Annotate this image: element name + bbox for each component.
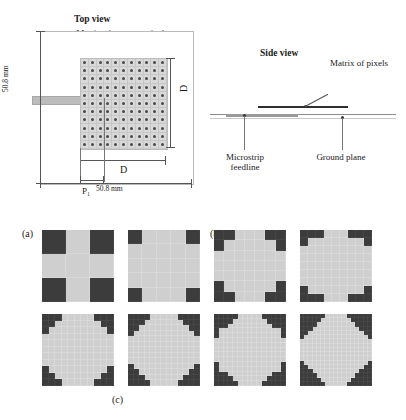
patch-pixel: [89, 67, 97, 75]
pixel-grid: [42, 314, 114, 386]
pixel-on: [128, 273, 142, 287]
pixel-on: [300, 262, 308, 270]
pixel-on: [224, 261, 234, 271]
leader-line-ground: [342, 118, 343, 150]
patch-pixel: [120, 84, 128, 92]
pattern-8: [300, 314, 372, 386]
patch-pixel: [112, 141, 120, 149]
pixel-on: [186, 244, 200, 258]
patch-pixel: [151, 108, 159, 116]
patch-pixel: [112, 133, 120, 141]
pixel-on: [276, 261, 286, 271]
pixel-on: [224, 281, 234, 291]
tick-right-bottom: [191, 179, 192, 188]
figure-root: Top view Matrix of nₚₓ x nₚₓ pixels 50.8…: [0, 0, 406, 420]
pixel-on: [332, 278, 340, 286]
pixel-off: [368, 382, 372, 386]
patch-pixel: [112, 67, 120, 75]
pixel-grid: [128, 314, 200, 386]
dimension-label-width: 50.8 mm: [94, 185, 125, 193]
patch-pixel: [112, 100, 120, 108]
pixel-on: [324, 286, 332, 294]
patch-pixel: [81, 116, 89, 124]
pixel-on: [316, 286, 324, 294]
pixel-on: [348, 286, 356, 294]
pixel-on: [340, 262, 348, 270]
patch-pixel: [81, 100, 89, 108]
patch-pixel: [81, 67, 89, 75]
patch-pixel: [104, 59, 112, 67]
pixel-off: [90, 230, 114, 254]
pixel-on: [348, 270, 356, 278]
pixel-on: [324, 254, 332, 262]
dimension-line-height: [40, 31, 41, 183]
pixel-on: [245, 251, 255, 261]
patch-pixel: [89, 75, 97, 83]
pixel-on: [332, 286, 340, 294]
patch-pixel: [144, 100, 152, 108]
pixel-off: [90, 278, 114, 302]
patch-pixel: [120, 67, 128, 75]
pixel-on: [235, 230, 245, 240]
patch-pixel: [104, 84, 112, 92]
pixel-on: [308, 278, 316, 286]
pixel-off: [356, 294, 364, 302]
pixel-on: [340, 294, 348, 302]
patch-pixel: [136, 67, 144, 75]
pixel-on: [186, 273, 200, 287]
patch-pixel: [151, 84, 159, 92]
patch-pixel: [104, 141, 112, 149]
pixel-on: [142, 244, 156, 258]
pixel-on: [324, 278, 332, 286]
patch-pixel: [159, 92, 167, 100]
pixel-on: [255, 230, 265, 240]
pattern-3: [214, 230, 286, 302]
patch-pixel: [89, 133, 97, 141]
pixel-off: [281, 381, 286, 386]
pattern-5: [42, 314, 114, 386]
pixel-on: [308, 286, 316, 294]
pixel-off: [214, 292, 224, 302]
pixel-on: [255, 281, 265, 291]
patch-pixel: [89, 92, 97, 100]
pixel-on: [171, 230, 185, 244]
patch-pixel: [151, 100, 159, 108]
pixel-off: [300, 294, 308, 302]
pixel-on: [224, 240, 234, 250]
patch-pixel: [97, 75, 105, 83]
pixel-on: [245, 240, 255, 250]
patch-pixel: [128, 124, 136, 132]
patch-pixel: [104, 133, 112, 141]
microstrip-feedline-layer: [226, 114, 298, 117]
pixel-on: [224, 271, 234, 281]
pixel-off: [364, 238, 372, 246]
pixel-off: [316, 230, 324, 238]
patch-pixel: [128, 116, 136, 124]
pixel-off: [308, 294, 316, 302]
pixel-off: [300, 238, 308, 246]
pixel-on: [142, 273, 156, 287]
pixel-off: [214, 230, 224, 240]
pixel-on: [214, 251, 224, 261]
panel-b-title: Side view: [260, 48, 298, 59]
pixel-on: [348, 262, 356, 270]
patch-pixel: [144, 124, 152, 132]
patch-pixel: [120, 141, 128, 149]
patch-pixel: [128, 92, 136, 100]
patch-pixel: [136, 84, 144, 92]
patch-pixel: [159, 75, 167, 83]
patch-pixel: [151, 116, 159, 124]
dimension-line-d-vertical: [170, 58, 171, 148]
pixel-off: [276, 230, 286, 240]
pixel-on: [255, 261, 265, 271]
pixel-on: [356, 286, 364, 294]
patch-pixel: [128, 108, 136, 116]
pixel-on: [364, 254, 372, 262]
pixel-on: [348, 278, 356, 286]
patch-pixel: [151, 75, 159, 83]
pixel-on: [308, 262, 316, 270]
patch-pixel: [128, 75, 136, 83]
pixel-off: [276, 292, 286, 302]
pixel-on: [340, 270, 348, 278]
pixel-on: [340, 278, 348, 286]
